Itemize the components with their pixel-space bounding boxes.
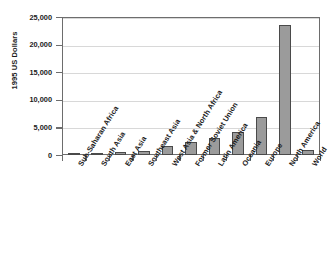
y-tick-label: 0 (0, 151, 52, 160)
y-tick-label: 25,000 (0, 13, 52, 22)
bar (279, 25, 291, 155)
x-tick-mark (62, 155, 63, 161)
bar-chart: 1995 US Dollars 05,00010,00015,00020,000… (0, 0, 329, 264)
y-tick-label: 10,000 (0, 95, 52, 104)
bar (91, 153, 103, 155)
y-tick-label: 5,000 (0, 123, 52, 132)
bar (115, 152, 127, 155)
y-tick-label: 15,000 (0, 68, 52, 77)
y-axis-title: 1995 US Dollars (10, 21, 19, 101)
bar (68, 153, 80, 155)
y-tick-label: 20,000 (0, 40, 52, 49)
